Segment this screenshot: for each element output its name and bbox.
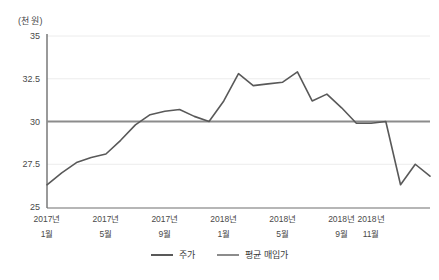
x-axis-ticks-group: 2017년1월2017년5월2017년9월2018년1월2018년5월2018년…: [34, 214, 385, 239]
legend-item-stock-price: 주가: [151, 248, 195, 261]
x-axis-tick-month: 1월: [217, 229, 230, 239]
x-axis-tick-month: 9월: [158, 229, 171, 239]
x-axis-tick-year: 2018년: [328, 214, 355, 224]
x-axis-tick-month: 1월: [41, 229, 54, 239]
stock-price-line-chart: (천 원) 2527.53032.535 2017년1월2017년5월2017년…: [0, 0, 439, 280]
x-axis-tick-month: 5월: [100, 229, 113, 239]
chart-legend: 주가 평균 매입가: [0, 248, 439, 261]
x-axis-tick-month: 11월: [363, 229, 380, 239]
y-axis-tick-label: 35: [30, 31, 40, 41]
x-axis-tick-year: 2017년: [34, 214, 61, 224]
series-line-stock-price: [47, 72, 430, 185]
x-axis-tick-year: 2017년: [151, 214, 178, 224]
legend-label-stock-price: 주가: [179, 248, 195, 261]
x-axis-tick-month: 5월: [276, 229, 289, 239]
legend-item-average-purchase-price: 평균 매입가: [217, 248, 288, 261]
y-axis-tick-label: 32.5: [22, 74, 40, 84]
x-axis-tick-month: 9월: [335, 229, 348, 239]
y-axis-tick-label: 27.5: [22, 159, 40, 169]
chart-plot-area: 2527.53032.535 2017년1월2017년5월2017년9월2018…: [0, 0, 439, 280]
legend-swatch-average-purchase-price: [217, 254, 239, 256]
gridlines-group: [47, 36, 430, 164]
x-axis-tick-year: 2018년: [210, 214, 237, 224]
x-axis-tick-year: 2018년: [269, 214, 296, 224]
x-axis-tick-year: 2017년: [92, 214, 119, 224]
x-axis-tick-year: 2018년: [358, 214, 385, 224]
legend-label-average-purchase-price: 평균 매입가: [245, 248, 288, 261]
y-axis-tick-label: 30: [30, 117, 40, 127]
y-axis-ticks-group: 2527.53032.535: [22, 31, 40, 212]
legend-swatch-stock-price: [151, 254, 173, 256]
y-axis-tick-label: 25: [30, 202, 40, 212]
